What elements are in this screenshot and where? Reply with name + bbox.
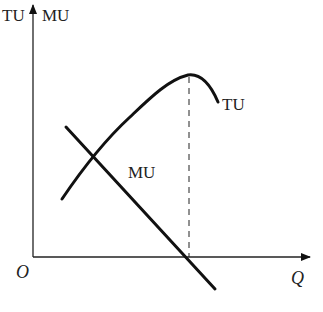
mu-curve-label: MU [128, 163, 155, 182]
tu-curve-label: TU [222, 95, 245, 114]
y-axis-label-tu: TU [2, 6, 25, 25]
origin-label: O [16, 262, 29, 282]
y-axis-label-mu: MU [42, 6, 69, 25]
x-axis-label-q: Q [291, 268, 304, 288]
mu-line [66, 127, 215, 289]
utility-chart: TU MU TU MU O Q [0, 0, 323, 312]
